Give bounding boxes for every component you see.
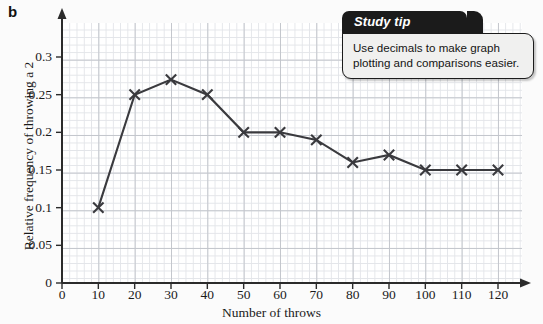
x-tick-label: 100 (415, 287, 435, 303)
x-tick-label: 10 (92, 287, 106, 303)
x-tick-label: 40 (201, 287, 215, 303)
x-tick-label: 20 (128, 287, 142, 303)
x-tick-label: 60 (273, 287, 287, 303)
x-tick-label: 90 (382, 287, 396, 303)
x-tick-label: 50 (237, 287, 251, 303)
x-axis-title: Number of throws (0, 305, 543, 321)
study-tip-callout: Study tip Use decimals to make graph plo… (342, 11, 534, 79)
x-tick-label: 120 (488, 287, 508, 303)
panel-letter: b (8, 4, 17, 19)
study-tip-header: Study tip (342, 11, 467, 34)
study-tip-body: Use decimals to make graph plotting and … (342, 33, 534, 79)
x-tick-label: 70 (310, 287, 324, 303)
x-tick-label: 80 (346, 287, 360, 303)
x-tick-label: 110 (452, 287, 472, 303)
figure-panel: b 0102030405060708090100110120 00.050.10… (0, 0, 543, 324)
x-tick-label: 0 (59, 287, 66, 303)
y-axis-title: Relative frequency of throwing a 2 (21, 21, 37, 291)
x-tick-label: 30 (164, 287, 178, 303)
y-axis-arrow (58, 8, 67, 19)
